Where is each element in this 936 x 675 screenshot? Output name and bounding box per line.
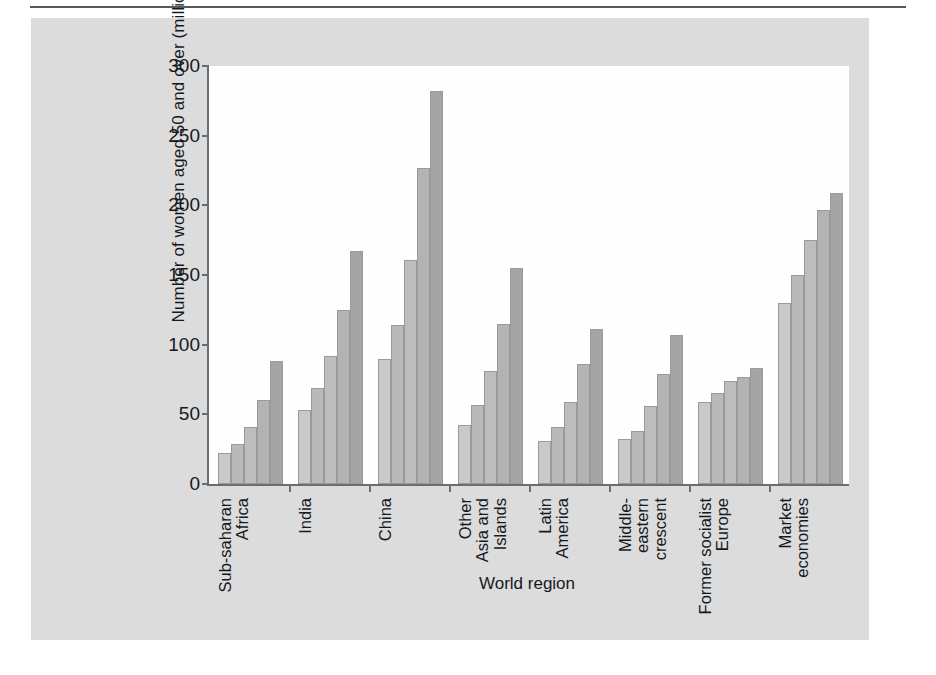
y-tick-label-300: 300 bbox=[168, 55, 200, 77]
x-axis-title: World region bbox=[207, 574, 847, 594]
x-axis-label: OtherAsia andIslands bbox=[457, 498, 509, 562]
bar bbox=[830, 193, 843, 484]
x-axis-group-separator bbox=[769, 484, 771, 492]
bar bbox=[510, 268, 523, 484]
x-axis-label-line: China bbox=[377, 498, 394, 541]
y-tick-mark-50 bbox=[202, 413, 209, 415]
bar bbox=[670, 335, 683, 484]
x-axis-label-line: Asia and bbox=[474, 498, 491, 562]
chart-panel: Number of women aged 50 and over (millio… bbox=[31, 18, 869, 640]
bar bbox=[270, 361, 283, 484]
bar bbox=[471, 405, 484, 484]
bar bbox=[311, 388, 324, 484]
y-tick-label-50: 50 bbox=[179, 403, 200, 425]
bar bbox=[750, 368, 763, 484]
figure: Number of women aged 50 and over (millio… bbox=[0, 0, 936, 675]
x-axis-group-separator bbox=[369, 484, 371, 492]
x-axis-group-separator bbox=[609, 484, 611, 492]
bar bbox=[244, 427, 257, 484]
y-tick-label-250: 250 bbox=[168, 125, 200, 147]
x-axis-label-line: Islands bbox=[492, 498, 509, 550]
y-tick-mark-150 bbox=[202, 274, 209, 276]
bar bbox=[417, 168, 430, 484]
bars-layer bbox=[209, 66, 849, 484]
bar-group bbox=[458, 66, 523, 484]
bar bbox=[337, 310, 350, 484]
y-tick-label-200: 200 bbox=[168, 194, 200, 216]
bar bbox=[778, 303, 791, 484]
x-axis-label: India bbox=[297, 498, 314, 534]
bar bbox=[257, 400, 270, 484]
bar bbox=[804, 240, 817, 484]
bar bbox=[590, 329, 603, 484]
bar bbox=[484, 371, 497, 484]
bar bbox=[817, 210, 830, 484]
x-axis-label-line: Latin bbox=[537, 498, 554, 534]
x-axis-label-line: eastern bbox=[634, 498, 651, 553]
bar bbox=[618, 439, 631, 484]
bar-group bbox=[298, 66, 363, 484]
x-axis-label-line: Africa bbox=[234, 498, 251, 540]
x-axis-label: Middle-easterncrescent bbox=[617, 498, 669, 560]
bar bbox=[324, 356, 337, 484]
bar bbox=[538, 441, 551, 484]
x-axis-label: Marketeconomies bbox=[777, 498, 812, 578]
bar bbox=[458, 425, 471, 484]
bar bbox=[791, 275, 804, 484]
x-axis-group-separator bbox=[529, 484, 531, 492]
y-tick-label-100: 100 bbox=[168, 334, 200, 356]
y-tick-mark-250 bbox=[202, 135, 209, 137]
x-axis-group-separator bbox=[449, 484, 451, 492]
x-axis-label-line: America bbox=[554, 498, 571, 559]
x-axis-label-line: Europe bbox=[714, 498, 731, 551]
bar bbox=[657, 374, 670, 484]
bar bbox=[737, 377, 750, 484]
bar bbox=[564, 402, 577, 484]
x-axis-label-line: Middle- bbox=[617, 498, 634, 552]
bar bbox=[577, 364, 590, 484]
x-axis-label-line: Market bbox=[777, 498, 794, 548]
y-tick-mark-300 bbox=[202, 65, 209, 67]
bar-group bbox=[778, 66, 843, 484]
bar bbox=[391, 325, 404, 484]
x-axis-label-line: Other bbox=[457, 498, 474, 539]
bar bbox=[644, 406, 657, 484]
y-axis-title: Number of women aged 50 and over (millio… bbox=[169, 0, 189, 356]
y-tick-mark-100 bbox=[202, 344, 209, 346]
y-tick-mark-0 bbox=[202, 483, 209, 485]
plot-area: 050100150200250300 Sub-saharanAfricaIndi… bbox=[207, 66, 849, 486]
x-axis-label-line: Former socialist bbox=[697, 498, 714, 614]
bar bbox=[698, 402, 711, 484]
x-axis-label: China bbox=[377, 498, 394, 541]
bar bbox=[711, 393, 724, 484]
bar-group bbox=[218, 66, 283, 484]
x-axis-group-separator bbox=[289, 484, 291, 492]
bar bbox=[378, 359, 391, 484]
y-tick-label-0: 0 bbox=[189, 473, 200, 495]
bar bbox=[551, 427, 564, 484]
bar bbox=[298, 410, 311, 484]
y-tick-label-150: 150 bbox=[168, 264, 200, 286]
bar bbox=[430, 91, 443, 484]
x-axis-group-separator bbox=[689, 484, 691, 492]
top-rule-divider bbox=[30, 6, 906, 8]
bar bbox=[404, 260, 417, 484]
bar-group bbox=[538, 66, 603, 484]
bar bbox=[724, 381, 737, 484]
bar bbox=[350, 251, 363, 484]
bar-group bbox=[698, 66, 763, 484]
x-axis-label: LatinAmerica bbox=[537, 498, 572, 559]
bar bbox=[218, 453, 231, 484]
bar-group bbox=[618, 66, 683, 484]
bar bbox=[631, 431, 644, 484]
bar-group bbox=[378, 66, 443, 484]
x-axis-label-line: economies bbox=[794, 498, 811, 578]
bar bbox=[231, 444, 244, 484]
y-tick-mark-200 bbox=[202, 204, 209, 206]
x-axis-label-line: crescent bbox=[652, 498, 669, 560]
bar bbox=[497, 324, 510, 484]
x-axis-label-line: India bbox=[297, 498, 314, 534]
x-axis-label: Former socialistEurope bbox=[697, 498, 732, 614]
